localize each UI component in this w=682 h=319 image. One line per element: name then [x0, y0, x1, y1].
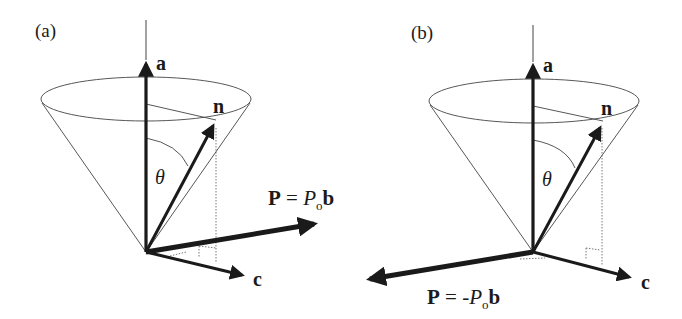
theta-label-a: θ: [155, 166, 165, 188]
label-n-b: n: [601, 97, 612, 119]
vector-n-a: [146, 126, 213, 252]
label-c-a: c: [253, 268, 262, 290]
label-a-a: a: [156, 52, 166, 74]
label-n-a: n: [213, 95, 224, 117]
panel-b-label: (b): [411, 22, 433, 44]
radius-line-b: [533, 106, 603, 121]
vector-n-b: [533, 128, 600, 252]
vector-c-a: [146, 252, 242, 275]
theta-arc-b: [533, 140, 575, 168]
vector-c-b: [533, 252, 629, 277]
P-equation-b: P = -Pob: [427, 285, 500, 312]
panel-a: (a) a n c θ P = Pob: [35, 20, 334, 290]
theta-label-b: θ: [542, 168, 552, 190]
label-a-b: a: [543, 54, 553, 76]
P-equation-a: P = Pob: [268, 186, 334, 213]
radius-line-a: [146, 104, 216, 120]
panel-b: (b) a n c θ P = -Pob: [370, 22, 650, 312]
panel-a-label: (a): [35, 20, 56, 42]
label-c-b: c: [641, 271, 650, 293]
vector-P-a: [146, 224, 314, 252]
vector-P-b: [370, 252, 533, 279]
theta-arc-a: [146, 138, 188, 166]
figure-canvas: (a) a n c θ P = Pob: [0, 0, 682, 319]
